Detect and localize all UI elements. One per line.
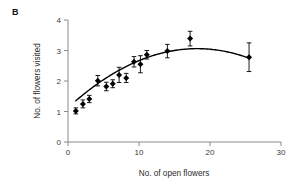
data-point-marker	[187, 36, 193, 42]
y-tick-label: 3	[57, 47, 62, 56]
data-point-marker	[137, 61, 143, 67]
y-tick-label: 0	[57, 138, 62, 147]
data-point-marker	[73, 108, 79, 114]
data-point-marker	[80, 101, 86, 107]
fitted-curve	[76, 49, 250, 101]
scatter-plot: 01234 0102030 No. of open flowers No. of…	[0, 0, 300, 184]
y-tick-label: 4	[57, 16, 62, 25]
y-axis-title: No. of flowers visited	[33, 43, 42, 119]
x-tick-label: 0	[66, 148, 71, 157]
y-tick-label: 1	[57, 108, 62, 117]
data-point-marker	[116, 72, 122, 78]
data-point-marker	[246, 54, 252, 60]
y-axis-ticks: 01234	[57, 16, 68, 147]
x-axis-title: No. of open flowers	[139, 169, 210, 178]
figure-panel-b: B 01234 0102030 No. of open flowers No. …	[0, 0, 300, 184]
data-point-markers	[73, 36, 252, 114]
x-tick-label: 10	[135, 148, 144, 157]
x-axis-ticks: 0102030	[66, 142, 286, 157]
data-point-marker	[123, 75, 129, 81]
y-tick-label: 2	[57, 77, 62, 86]
data-point-marker	[110, 81, 116, 87]
data-point-marker	[164, 48, 170, 54]
data-point-marker	[103, 83, 109, 89]
data-point-marker	[86, 96, 92, 102]
x-tick-label: 20	[206, 148, 215, 157]
error-bars	[74, 31, 252, 114]
x-tick-label: 30	[277, 148, 286, 157]
